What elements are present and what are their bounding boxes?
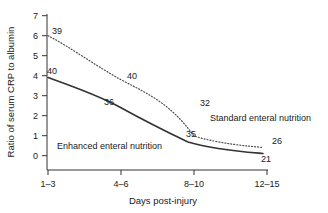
y-tick-label-7: 7 (33, 11, 38, 21)
point-label-standard-2: 32 (200, 98, 210, 108)
point-label-enhanced-0: 40 (47, 66, 57, 76)
x-tick-label-2: 8–10 (184, 179, 204, 189)
y-tick-label-3: 3 (33, 91, 38, 101)
point-label-standard-0: 39 (52, 26, 62, 36)
point-label-enhanced-2: 35 (186, 129, 196, 139)
series-annotation-standard: Standard enteral nutrition (210, 113, 311, 123)
line-chart: 7 6 5 4 3 2 1 0 1–3 4–6 8–10 12–15 Days … (0, 0, 328, 213)
y-axis-title: Ratio of serum CRP to albumin (5, 27, 16, 158)
x-tick-label-0: 1–3 (40, 179, 55, 189)
y-tick-label-5: 5 (33, 51, 38, 61)
x-axis-title: Days post-injury (129, 195, 197, 206)
y-tick-label-4: 4 (33, 71, 38, 81)
y-tick-label-6: 6 (33, 31, 38, 41)
series-line-standard (48, 36, 263, 148)
point-label-standard-3: 26 (272, 136, 282, 146)
y-tick-label-1: 1 (33, 131, 38, 141)
point-label-standard-1: 40 (127, 71, 137, 81)
chart-container: 7 6 5 4 3 2 1 0 1–3 4–6 8–10 12–15 Days … (0, 0, 328, 213)
y-tick-label-0: 0 (33, 151, 38, 161)
x-tick-label-1: 4–6 (113, 179, 128, 189)
point-label-enhanced-1: 36 (104, 97, 114, 107)
x-tick-label-3: 12–15 (254, 179, 279, 189)
y-tick-label-2: 2 (33, 111, 38, 121)
series-annotation-enhanced: Enhanced enteral nutrition (57, 141, 162, 151)
point-label-enhanced-3: 21 (261, 154, 271, 164)
